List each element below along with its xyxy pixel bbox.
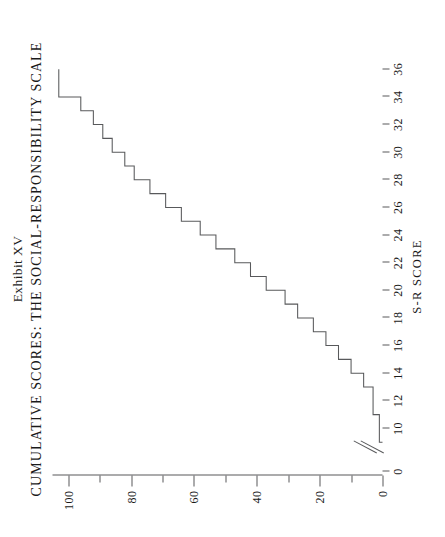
exhibit-figure: Exhibit XV CUMULATIVE SCORES: THE SOCIAL… (0, 0, 445, 537)
y-axis-tick-label: 0 (376, 490, 388, 497)
y-axis-minor-tick (99, 475, 100, 482)
x-axis-tick-label: 26 (391, 200, 403, 213)
exhibit-number: Exhibit XV (8, 0, 26, 537)
x-axis-title: S-R SCORE (409, 239, 424, 314)
y-axis-tick-label: 40 (250, 490, 262, 503)
cumulative-step-curve (52, 55, 387, 475)
y-axis-tick: 20 (319, 475, 320, 486)
x-axis-tick-label: 24 (391, 228, 403, 241)
x-axis-tick-label: 34 (391, 90, 403, 103)
figure-titles: Exhibit XV CUMULATIVE SCORES: THE SOCIAL… (8, 0, 46, 537)
y-axis-tick-label: 60 (187, 490, 199, 503)
y-axis-tick-label: 100 (62, 490, 74, 510)
x-axis-tick-label: 36 (391, 62, 403, 75)
x-axis-tick-label: 14 (391, 366, 403, 379)
x-axis-tick-label: 30 (391, 145, 403, 158)
y-axis-tick-label: 80 (125, 490, 137, 503)
y-axis-tick: 40 (256, 475, 257, 486)
x-axis-tick-label: 18 (391, 311, 403, 324)
y-axis-tick-label: 20 (313, 490, 325, 503)
y-axis-minor-tick (351, 475, 352, 482)
x-axis-tick-label: 16 (391, 339, 403, 352)
y-axis-minor-tick (162, 475, 163, 482)
x-axis-tick-label: 0 (391, 468, 403, 475)
x-axis-tick-label: 22 (391, 256, 403, 269)
y-axis-minor-tick (225, 475, 226, 482)
x-axis-tick-label: 32 (391, 118, 403, 131)
page-title: CUMULATIVE SCORES: THE SOCIAL-RESPONSIBI… (26, 0, 46, 537)
y-axis-minor-tick (288, 475, 289, 482)
x-axis-tick-label: 12 (391, 394, 403, 407)
x-axis-tick-label: 10 (391, 421, 403, 434)
y-axis-tick: 80 (131, 475, 132, 486)
y-axis-tick: 60 (193, 475, 194, 486)
x-axis-tick-label: 20 (391, 283, 403, 296)
y-axis-tick: 100 (68, 475, 69, 486)
y-axis-tick: 0 (382, 475, 383, 486)
x-axis-tick-label: 28 (391, 173, 403, 186)
plot-area: 020406080100 010121416182022242628303234… (52, 55, 382, 475)
